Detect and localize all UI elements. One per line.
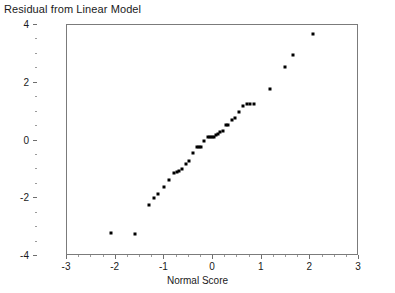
x-axis-label: -1 [159,261,168,272]
y-axis-label: 4 [23,19,29,30]
y-axis-tick-minor [35,212,37,213]
x-axis-tick-major [261,255,262,259]
x-axis-tick-minor [90,255,91,257]
chart-root: Residual from Linear Model Normal Score … [0,0,395,293]
data-point [181,168,184,171]
data-point [252,103,255,106]
x-axis-tick-minor [188,255,189,257]
y-axis-tick-minor [35,96,37,97]
x-axis-label: 1 [258,261,264,272]
x-axis-label: -3 [62,261,71,272]
data-point [191,152,194,155]
data-point [153,197,156,200]
data-point [147,204,150,207]
data-point [283,65,286,68]
x-axis-tick-minor [200,255,201,257]
y-axis-tick-major [33,82,37,83]
x-axis-label: 0 [209,261,215,272]
data-point [237,111,240,114]
x-axis-label: -2 [110,261,119,272]
x-axis-tick-minor [224,255,225,257]
y-axis-tick-minor [35,125,37,126]
data-point [133,233,136,236]
data-point [163,185,166,188]
data-point [291,54,294,57]
data-point [203,140,206,143]
x-axis-tick-major [309,255,310,259]
y-axis-tick-major [33,255,37,256]
y-axis-tick-minor [35,154,37,155]
data-point [241,105,244,108]
x-axis-tick-major [66,255,67,259]
x-axis-tick-minor [176,255,177,257]
x-axis-tick-minor [139,255,140,257]
data-point [227,124,230,127]
y-axis-tick-major [33,24,37,25]
data-point [188,159,191,162]
x-axis-tick-minor [236,255,237,257]
data-point [109,232,112,235]
y-axis-tick-major [33,197,37,198]
x-axis-label: 2 [307,261,313,272]
y-axis-tick-minor [35,183,37,184]
x-axis-tick-minor [322,255,323,257]
chart-title: Residual from Linear Model [4,3,141,15]
x-axis-title: Normal Score [0,275,395,286]
x-axis-tick-minor [127,255,128,257]
x-axis-tick-minor [249,255,250,257]
y-axis-tick-major [33,140,37,141]
y-axis-tick-minor [35,111,37,112]
x-axis-tick-major [212,255,213,259]
data-point [245,103,248,106]
x-axis-tick-minor [151,255,152,257]
data-point [221,129,224,132]
x-axis-tick-major [358,255,359,259]
x-axis-tick-major [163,255,164,259]
y-axis-label: 0 [23,134,29,145]
x-axis-tick-minor [78,255,79,257]
data-point [184,163,187,166]
y-axis-tick-minor [35,168,37,169]
y-axis-label: -4 [20,250,29,261]
x-axis-tick-minor [334,255,335,257]
data-point [199,146,202,149]
data-point [268,87,271,90]
x-axis-tick-major [115,255,116,259]
data-point [157,193,160,196]
y-axis-label: -2 [20,192,29,203]
x-axis-tick-minor [297,255,298,257]
y-axis-label: 2 [23,76,29,87]
x-axis-tick-minor [103,255,104,257]
x-axis-tick-minor [285,255,286,257]
y-axis-tick-minor [35,53,37,54]
plot-area [66,24,358,255]
data-point [167,179,170,182]
y-axis-tick-minor [35,226,37,227]
y-axis-tick-minor [35,67,37,68]
y-axis-tick-minor [35,38,37,39]
data-point [233,116,236,119]
y-axis-tick-minor [35,241,37,242]
x-axis-tick-minor [346,255,347,257]
x-axis-tick-minor [273,255,274,257]
x-axis-label: 3 [355,261,361,272]
data-point [311,33,314,36]
